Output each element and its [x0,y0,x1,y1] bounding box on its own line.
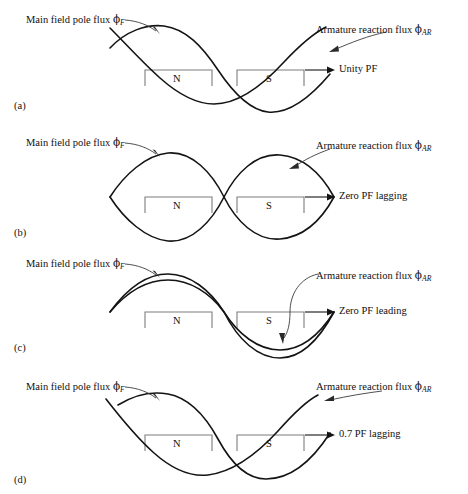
armature-reaction-flux-wave [110,280,334,358]
main-field-flux-wave [110,26,330,113]
phi-subscript-f: F [120,385,125,394]
south-pole-label: S [266,200,272,211]
phi-subscript-ar: AR [422,28,432,37]
main-flux-leader-line [125,264,156,275]
phi-symbol: ϕ [113,257,120,269]
phi-subscript-f: F [120,141,125,150]
main-flux-leader-head [153,394,161,402]
armature-flux-leader-head [324,396,334,402]
phi-symbol: ϕ [113,136,120,148]
main-flux-text: Main field pole flux [26,14,110,25]
phi-symbol: ϕ [415,269,422,281]
main-flux-label: Main field pole flux ϕF [26,381,125,394]
main-flux-text: Main field pole flux [26,258,110,269]
armature-flux-label: Armature reaction flux ϕAR [316,381,432,394]
panel-tag-b: (b) [14,227,26,238]
main-flux-text: Main field pole flux [26,381,110,392]
power-factor-label: Zero PF leading [339,305,407,316]
south-pole-label: S [266,315,272,326]
phi-symbol: ϕ [415,23,422,35]
armature-flux-leader-head [329,46,339,53]
panel-tag-a: (a) [14,100,26,111]
armature-reaction-flux-wave [110,155,334,241]
main-flux-leader-line [125,143,156,154]
panel-b: Main field pole flux ϕF Armature reactio… [0,123,468,246]
armature-flux-label: Armature reaction flux ϕAR [316,140,432,153]
north-pole-label: N [173,73,181,84]
armature-flux-label: Armature reaction flux ϕAR [316,270,432,283]
armature-flux-leader-head [289,163,299,170]
panel-a: Main field pole flux ϕF Armature reactio… [0,0,468,123]
phi-symbol: ϕ [113,13,120,25]
main-flux-label: Main field pole flux ϕF [26,14,125,27]
armature-flux-text: Armature reaction flux [316,381,412,392]
main-field-flux-wave [110,153,334,239]
main-flux-label: Main field pole flux ϕF [26,137,125,150]
south-pole-label: S [266,438,272,449]
phi-subscript-f: F [120,18,125,27]
panel-tag-d: (d) [14,474,26,485]
phi-subscript-f: F [120,262,125,271]
panel-c: Main field pole flux ϕF Armature reactio… [0,246,468,369]
armature-reaction-flux-wave [110,27,326,104]
phi-symbol: ϕ [415,139,422,151]
phi-subscript-ar: AR [422,385,432,394]
panel-d: Main field pole flux ϕF Armature reactio… [0,369,468,492]
main-field-flux-wave [118,393,330,479]
armature-flux-leader-line [284,274,318,338]
phi-subscript-ar: AR [422,144,432,153]
phi-subscript-ar: AR [422,274,432,283]
armature-flux-leader-head [279,333,285,344]
north-pole-label: N [173,200,181,211]
power-factor-label: 0.7 PF lagging [339,428,401,439]
phi-symbol: ϕ [113,380,120,392]
power-factor-label: Zero PF lagging [339,190,407,201]
power-factor-label: Unity PF [339,63,377,74]
armature-flux-text: Armature reaction flux [316,140,412,151]
main-flux-leader-head [153,27,161,35]
south-pole-label: S [266,73,272,84]
armature-flux-text: Armature reaction flux [316,24,412,35]
north-pole-label: N [173,438,181,449]
north-pole-label: N [173,315,181,326]
panel-tag-c: (c) [14,342,26,353]
armature-flux-label: Armature reaction flux ϕAR [316,24,432,37]
main-flux-label: Main field pole flux ϕF [26,258,125,271]
main-flux-text: Main field pole flux [26,137,110,148]
phi-symbol: ϕ [415,380,422,392]
baseline-arrow-head [327,67,335,74]
armature-flux-text: Armature reaction flux [316,270,412,281]
